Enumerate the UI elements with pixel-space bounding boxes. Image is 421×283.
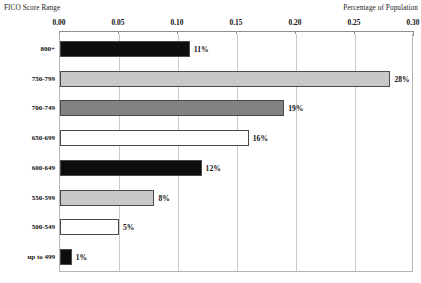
bar[interactable]	[60, 130, 249, 146]
bar-value-label: 5%	[123, 223, 134, 232]
bar-value-label: 12%	[206, 163, 221, 172]
y-axis-category-labels: 800+750-799700-749650-699600-649550-5995…	[0, 34, 55, 272]
bar[interactable]	[60, 100, 284, 116]
x-tick-label: 0.15	[230, 18, 243, 27]
y-category-label: 650-699	[32, 134, 55, 142]
bar-row: 19%	[60, 100, 412, 116]
gridline	[296, 34, 297, 271]
gridline	[119, 34, 120, 271]
bar-row: 8%	[60, 190, 412, 206]
x-tick-label: 0.05	[112, 18, 125, 27]
y-axis-title: FICO Score Range	[4, 4, 60, 12]
bar[interactable]	[60, 249, 72, 265]
plot-area: 11%28%19%16%12%8%5%1%	[59, 34, 413, 272]
bar-value-label: 8%	[158, 193, 169, 202]
bar-row: 12%	[60, 160, 412, 176]
bar[interactable]	[60, 190, 154, 206]
bar-row: 5%	[60, 219, 412, 235]
x-tick-label: 0.20	[289, 18, 302, 27]
y-category-label: 750-799	[32, 75, 55, 83]
x-tick-label: 0.10	[171, 18, 184, 27]
y-category-label: 500-549	[32, 223, 55, 231]
y-category-label: 700-749	[32, 104, 55, 112]
y-category-label: 550-599	[32, 194, 55, 202]
bar[interactable]	[60, 71, 390, 87]
x-tick-label: 0.25	[348, 18, 361, 27]
gridline	[178, 34, 179, 271]
y-category-label: up to 499	[27, 253, 55, 261]
gridline	[355, 34, 356, 271]
bar[interactable]	[60, 219, 119, 235]
bar-row: 1%	[60, 249, 412, 265]
gridline	[237, 34, 238, 271]
x-tick-label: 0.00	[53, 18, 66, 27]
bar[interactable]	[60, 160, 202, 176]
bar[interactable]	[60, 41, 190, 57]
bottom-caption	[0, 275, 421, 283]
bar-value-label: 19%	[288, 104, 303, 113]
x-tick-label: 0.30	[407, 18, 420, 27]
bar-value-label: 16%	[253, 134, 268, 143]
bar-value-label: 11%	[194, 44, 209, 53]
bar-value-label: 1%	[76, 253, 87, 262]
y-category-label: 600-649	[32, 164, 55, 172]
x-axis-tick-labels: 0.000.050.100.150.200.250.30	[0, 18, 421, 30]
bar-row: 11%	[60, 41, 412, 57]
bar-row: 16%	[60, 130, 412, 146]
bar-row: 28%	[60, 71, 412, 87]
bar-value-label: 28%	[394, 74, 409, 83]
chart-page: FICO Score Range Percentage of Populatio…	[0, 0, 421, 283]
x-tick-mark	[413, 31, 414, 36]
y-category-label: 800+	[41, 45, 56, 53]
x-axis-title: Percentage of Population	[343, 4, 418, 12]
